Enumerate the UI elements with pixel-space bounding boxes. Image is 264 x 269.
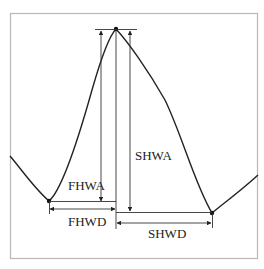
waveform-curve	[10, 29, 258, 213]
waveform-diagram: FHWA FHWD SHWA SHWD	[0, 0, 264, 269]
left-valley-point	[47, 199, 51, 203]
diagram-frame	[11, 14, 258, 259]
fhwd-label: FHWD	[68, 214, 106, 229]
fhwa-label: FHWA	[68, 178, 105, 193]
right-valley-point	[210, 211, 214, 215]
shwd-label: SHWD	[148, 226, 186, 241]
shwa-label: SHWA	[135, 148, 172, 163]
